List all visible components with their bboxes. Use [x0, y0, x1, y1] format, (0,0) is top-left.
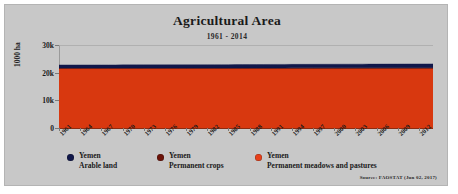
legend-color-dot-icon: [157, 154, 164, 161]
area-series: [59, 69, 433, 128]
y-axis-tick-label: 20k: [42, 68, 54, 77]
legend-country: Yemen: [169, 151, 191, 160]
legend-category: Arable land: [79, 161, 117, 171]
x-axis-tick: [398, 128, 399, 131]
stacked-area-series: [59, 45, 433, 128]
y-axis-title: 1000 ha: [13, 42, 22, 67]
legend-color-dot-icon: [67, 154, 74, 161]
x-axis-tick: [419, 128, 420, 131]
source-note: Source: FAOSTAT (Jun 02, 2017): [360, 175, 437, 180]
x-axis-tick: [59, 128, 60, 131]
x-axis-tick: [355, 128, 356, 131]
x-axis-tick: [207, 128, 208, 131]
legend-country: Yemen: [79, 151, 101, 160]
y-axis-tick-label: 0: [50, 124, 54, 133]
legend-label: YemenPermanent crops: [169, 151, 224, 170]
x-axis-tick: [80, 128, 81, 131]
y-axis-tick-label: 30k: [42, 41, 54, 50]
area-series: [59, 64, 433, 68]
chart-subtitle: 1961 - 2014: [5, 32, 449, 41]
legend-category: Permanent crops: [169, 161, 224, 171]
plot-area: 010k20k30k: [59, 45, 433, 128]
x-axis-tick: [313, 128, 314, 131]
legend-label: YemenPermanent meadows and pastures: [267, 151, 377, 170]
x-axis-tick: [144, 128, 145, 131]
x-axis-tick: [271, 128, 272, 131]
legend-category: Permanent meadows and pastures: [267, 161, 377, 171]
x-axis-tick: [165, 128, 166, 131]
x-axis-tick: [123, 128, 124, 131]
x-axis-tick: [377, 128, 378, 131]
legend-label: YemenArable land: [79, 151, 117, 170]
x-axis-tick: [228, 128, 229, 131]
chart-title: Agricultural Area: [5, 13, 449, 29]
legend-color-dot-icon: [255, 154, 262, 161]
x-axis-tick: [292, 128, 293, 131]
x-axis-tick: [250, 128, 251, 131]
y-axis-tick: [55, 45, 59, 46]
y-axis-tick: [55, 128, 59, 129]
x-axis-tick: [334, 128, 335, 131]
y-axis-tick: [55, 100, 59, 101]
legend-country: Yemen: [267, 151, 289, 160]
y-axis-tick: [55, 73, 59, 74]
chart-card: Agricultural Area 1961 - 2014 1000 ha 01…: [4, 4, 448, 186]
x-axis-tick: [101, 128, 102, 131]
chart-legend: YemenArable landYemenPermanent cropsYeme…: [5, 152, 449, 174]
x-axis-tick: [186, 128, 187, 131]
y-axis-tick-label: 10k: [42, 96, 54, 105]
